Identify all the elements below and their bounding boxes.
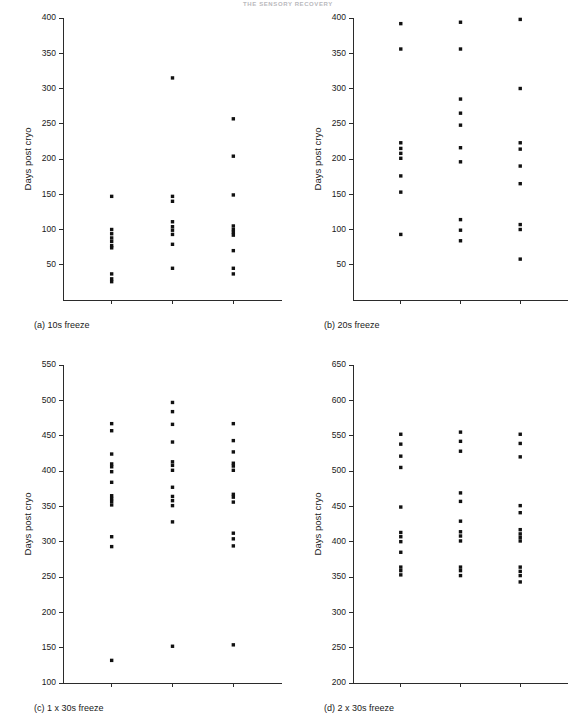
data-point <box>232 500 235 503</box>
panel-c: 100150200250300350400450500550Days post … <box>0 357 290 693</box>
data-point <box>232 464 235 467</box>
panel-b-caption: (b) 20s freeze <box>324 320 380 330</box>
data-point <box>232 537 235 540</box>
data-point <box>519 433 522 436</box>
data-point <box>459 574 462 577</box>
y-tick-label: 300 <box>42 536 56 546</box>
y-axis-title: Days post cryo <box>312 128 323 191</box>
category-label-touch: Touch <box>99 691 124 693</box>
data-point <box>110 503 113 506</box>
data-point <box>459 111 462 114</box>
data-point <box>110 452 113 455</box>
data-point <box>399 433 402 436</box>
data-point <box>519 536 522 539</box>
y-tick-label: 300 <box>332 607 346 617</box>
data-point <box>110 280 113 283</box>
data-point <box>399 531 402 534</box>
y-tick-label: 400 <box>42 465 56 475</box>
data-point <box>519 18 522 21</box>
data-point <box>399 540 402 543</box>
data-point <box>171 440 174 443</box>
data-point <box>399 147 402 150</box>
y-tick-label: 150 <box>42 189 56 199</box>
data-point <box>232 267 235 270</box>
data-point <box>399 152 402 155</box>
data-point <box>519 511 522 514</box>
y-tick-label: 250 <box>42 571 56 581</box>
y-tick-label: 300 <box>332 83 346 93</box>
data-point <box>519 182 522 185</box>
data-point <box>399 565 402 568</box>
y-axis-title: Days post cryo <box>22 128 33 191</box>
data-point <box>171 645 174 648</box>
data-point <box>519 147 522 150</box>
data-point <box>519 532 522 535</box>
y-tick-label: 50 <box>47 259 57 269</box>
data-point <box>519 528 522 531</box>
data-point <box>459 440 462 443</box>
data-point <box>459 430 462 433</box>
data-point <box>399 47 402 50</box>
data-point <box>171 200 174 203</box>
y-tick-label: 600 <box>332 395 346 405</box>
data-point <box>519 574 522 577</box>
y-tick-label: 650 <box>332 359 346 369</box>
data-point <box>232 117 235 120</box>
data-point <box>110 232 113 235</box>
y-tick-label: 400 <box>332 536 346 546</box>
category-label-pain: Pain <box>451 308 470 310</box>
category-label-cold: Cold <box>510 308 530 310</box>
data-point <box>459 97 462 100</box>
y-tick-label: 350 <box>332 48 346 58</box>
data-point <box>519 442 522 445</box>
panel-a-caption: (a) 10s freeze <box>34 320 90 330</box>
data-point <box>232 249 235 252</box>
data-point <box>519 87 522 90</box>
category-label-touch: Touch <box>99 308 124 310</box>
data-point <box>459 47 462 50</box>
data-point <box>232 450 235 453</box>
data-point <box>519 164 522 167</box>
data-point <box>232 643 235 646</box>
y-tick-label: 250 <box>332 642 346 652</box>
data-point <box>171 76 174 79</box>
data-point <box>399 454 402 457</box>
data-point <box>171 486 174 489</box>
panel-c-plot: 100150200250300350400450500550Days post … <box>0 357 290 693</box>
y-tick-label: 400 <box>332 12 346 22</box>
data-point <box>459 539 462 542</box>
data-point <box>171 233 174 236</box>
data-point <box>519 539 522 542</box>
y-tick-label: 350 <box>42 501 56 511</box>
data-point <box>232 224 235 227</box>
y-tick-label: 100 <box>42 677 56 687</box>
data-point <box>459 146 462 149</box>
data-point <box>171 504 174 507</box>
data-point <box>232 531 235 534</box>
panel-a-plot: 50100150200250300350400Days post cryoTou… <box>0 10 290 310</box>
data-point <box>110 429 113 432</box>
data-point <box>232 469 235 472</box>
data-point <box>110 465 113 468</box>
data-point <box>110 422 113 425</box>
data-point <box>519 570 522 573</box>
y-tick-label: 200 <box>332 153 346 163</box>
data-point <box>399 442 402 445</box>
data-point <box>232 439 235 442</box>
data-point <box>459 569 462 572</box>
panel-d-plot: 200250300350400450500550600650Days post … <box>290 357 576 693</box>
panel-d: 200250300350400450500550600650Days post … <box>290 357 576 693</box>
running-head: THE SENSORY RECOVERY <box>0 0 576 9</box>
data-point <box>110 246 113 249</box>
data-point <box>171 469 174 472</box>
data-point <box>459 218 462 221</box>
data-point <box>110 535 113 538</box>
data-point <box>519 141 522 144</box>
data-point <box>459 123 462 126</box>
data-point <box>459 565 462 568</box>
y-tick-label: 300 <box>42 83 56 93</box>
y-axis-title: Days post cryo <box>22 493 33 556</box>
y-axis-title: Days post cryo <box>312 493 323 556</box>
data-point <box>171 410 174 413</box>
y-tick-label: 250 <box>332 118 346 128</box>
